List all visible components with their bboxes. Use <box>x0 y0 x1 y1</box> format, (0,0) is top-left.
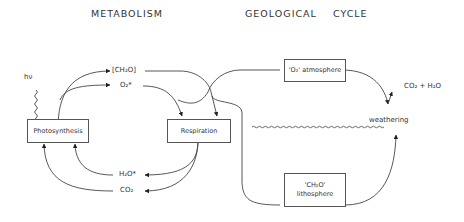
atmosphere-label: 'O₂' atmosphere <box>289 66 341 75</box>
atmosphere-box: 'O₂' atmosphere <box>284 59 346 82</box>
surface-line <box>252 126 384 128</box>
flow-arrows <box>0 0 464 222</box>
photosynthesis-box: Photosynthesis <box>27 119 89 143</box>
co2-h2o-label: CO₂ + H₂O <box>404 82 441 90</box>
respiration-label: Respiration <box>181 127 218 136</box>
lithosphere-label: lithosphere <box>297 190 333 199</box>
h2o-label: H₂O* <box>119 170 136 178</box>
respiration-box: Respiration <box>167 119 231 143</box>
lithosphere-formula: 'CH₂O' <box>305 181 326 190</box>
o2-label: O₂* <box>120 81 132 89</box>
ch2o-label: [CH₂O] <box>112 66 136 74</box>
weathering-label: weathering <box>369 116 409 124</box>
co2-label: CO₂ <box>120 186 133 194</box>
photosynthesis-label: Photosynthesis <box>33 127 82 136</box>
lithosphere-box: 'CH₂O' lithosphere <box>284 173 346 207</box>
light-label: hν <box>24 73 32 81</box>
